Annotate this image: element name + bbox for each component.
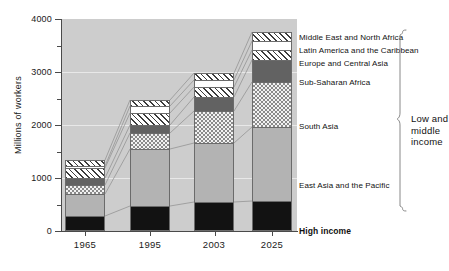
segment-2003-europe-and-central-asia <box>194 87 234 97</box>
bracket-label-low-and-middle-income: Low and middle income <box>411 113 448 148</box>
x-tick-1995 <box>150 231 151 236</box>
segment-2003-east-asia-and-the-pacific <box>194 143 234 202</box>
x-tick-label-2003: 2003 <box>191 239 237 250</box>
x-tick-2003 <box>215 231 216 236</box>
y-tick-label-1000: 1000 <box>31 174 52 183</box>
x-tick-1965 <box>85 231 86 236</box>
y-tick-1500 <box>57 152 61 153</box>
x-tick-label-1995: 1995 <box>127 239 173 250</box>
segment-1965-europe-and-central-asia <box>65 168 105 178</box>
x-axis-line <box>61 231 298 232</box>
y-tick-500 <box>57 205 61 206</box>
segment-1995-sub-saharan-africa <box>130 125 170 133</box>
y-tick-label-3000: 3000 <box>31 68 52 77</box>
segment-1965-sub-saharan-africa <box>65 178 105 185</box>
bracket-label-line-3: income <box>411 136 448 148</box>
y-tick-3500 <box>57 46 61 47</box>
segment-2025-south-asia <box>252 82 292 127</box>
segment-2003-high-income <box>194 202 234 231</box>
segment-2003-south-asia <box>194 111 234 143</box>
y-tick-4000 <box>55 19 61 20</box>
segment-1995-south-asia <box>130 133 170 149</box>
segment-2025-high-income <box>252 201 292 231</box>
y-tick-2000 <box>55 125 61 126</box>
bar-2025 <box>252 32 292 231</box>
segment-2025-sub-saharan-africa <box>252 60 292 82</box>
y-tick-label-2000: 2000 <box>31 121 52 130</box>
y-axis-title: Millions of workers <box>13 45 23 185</box>
y-tick-label-group: 4000 3000 2000 1000 0 <box>0 0 52 271</box>
y-tick-label-0: 0 <box>47 227 52 236</box>
y-tick-label-4000: 4000 <box>31 15 52 24</box>
x-tick-2025 <box>272 231 273 236</box>
legend-label-sub-saharan-africa: Sub-Saharan Africa <box>299 78 370 87</box>
y-tick-3000 <box>55 72 61 73</box>
bracket-label-line-1: Low and <box>411 113 448 125</box>
segment-1965-south-asia <box>65 185 105 194</box>
segment-1965-high-income <box>65 216 105 231</box>
bar-1995 <box>130 100 170 231</box>
bracket-label-line-2: middle <box>411 125 448 137</box>
chart-root: 4000 3000 2000 1000 0 Millions of worker… <box>0 0 449 271</box>
segment-2025-europe-and-central-asia <box>252 50 292 60</box>
y-axis-line <box>61 19 62 232</box>
segment-1995-east-asia-and-the-pacific <box>130 149 170 206</box>
legend-label-high-income: High income <box>299 227 351 236</box>
segment-2003-middle-east-and-north-africa <box>194 73 234 80</box>
segment-2003-sub-saharan-africa <box>194 97 234 111</box>
legend-label-europe-and-central-asia: Europe and Central Asia <box>299 59 388 68</box>
y-tick-2500 <box>57 99 61 100</box>
bar-1965 <box>65 160 105 231</box>
segment-2025-latin-america-and-the-caribbean <box>252 41 292 50</box>
legend-label-south-asia: South Asia <box>299 122 338 131</box>
segment-1995-high-income <box>130 206 170 231</box>
bar-2003 <box>194 73 234 231</box>
segment-1995-latin-america-and-the-caribbean <box>130 106 170 113</box>
segment-1995-europe-and-central-asia <box>130 113 170 125</box>
segment-2025-east-asia-and-the-pacific <box>252 127 292 201</box>
low-and-middle-income-bracket <box>396 28 410 214</box>
segment-2025-middle-east-and-north-africa <box>252 32 292 41</box>
y-tick-1000 <box>55 178 61 179</box>
segment-1965-east-asia-and-the-pacific <box>65 194 105 216</box>
legend-label-middle-east-and-north-africa: Middle East and North Africa <box>299 33 403 42</box>
x-tick-label-2025: 2025 <box>249 239 295 250</box>
legend-label-east-asia-and-the-pacific: East Asia and the Pacific <box>299 181 390 190</box>
x-tick-label-1965: 1965 <box>62 239 108 250</box>
segment-2003-latin-america-and-the-caribbean <box>194 80 234 87</box>
